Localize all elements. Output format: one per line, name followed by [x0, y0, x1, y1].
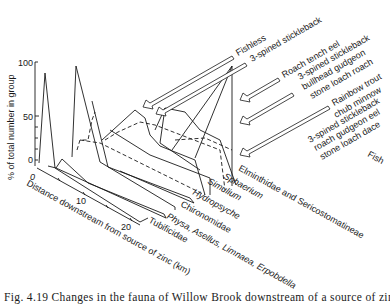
figure-caption: Fig. 4.19 Changes in the fauna of Willow… [4, 291, 388, 303]
series-label-elminthidae: Elminthidae and Sericostomatineae [237, 163, 366, 240]
series-label-physa: Physa, Asellus, Limnaea, Erpobdella [165, 211, 298, 291]
profile-elminthidae-dashed [105, 122, 225, 190]
profile-fish [172, 66, 232, 186]
fish-zone-labels: Fishless 3-spined stickleback Roach tenc… [234, 14, 384, 161]
profile-simulium [155, 108, 236, 185]
y-tick-50: 50 [23, 112, 33, 122]
y-axis-label: % of total number in group [6, 74, 16, 180]
y-tick-0: 0 [28, 155, 33, 165]
figure-canvas: 100 50 0 % of total number in group 0 10… [0, 0, 390, 304]
y-tick-100: 100 [18, 58, 33, 68]
y-axis: 100 50 0 % of total number in group [6, 58, 39, 180]
profile-simulium-dashed [77, 112, 205, 195]
series-label-fish: Fish [366, 149, 386, 166]
arrow-roach-tench-eel [240, 78, 280, 102]
